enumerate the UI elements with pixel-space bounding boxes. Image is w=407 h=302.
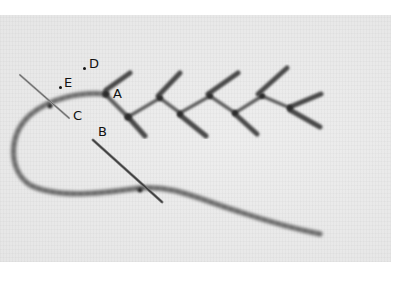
- stitch-branches-lower: [128, 110, 320, 136]
- label-c: C: [73, 109, 82, 122]
- stitch-illustration: [0, 15, 391, 262]
- label-e: E: [64, 76, 72, 89]
- stitch-branches-upper: [106, 68, 321, 107]
- point-e-marker: [59, 86, 62, 89]
- label-b: B: [98, 125, 107, 138]
- label-d: D: [89, 57, 99, 70]
- stitch-photo: D E A C B: [0, 15, 391, 262]
- point-d-marker: [83, 67, 86, 70]
- label-a: A: [113, 87, 122, 100]
- yarn-loop: [14, 94, 321, 234]
